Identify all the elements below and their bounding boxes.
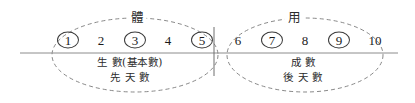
number-7: 7: [261, 32, 283, 49]
diagram-root: 體 用 1 2 3 4 5 6 7 8 9 10 生 數(基本數) 先 天 數 …: [0, 0, 415, 103]
description-right-secondary: 後 天 數: [283, 72, 322, 83]
group-cap-label-right: 用: [285, 12, 304, 25]
description-right-primary: 成 數: [291, 57, 316, 68]
diagram-text-layer: 體 用 1 2 3 4 5 6 7 8 9 10 生 數(基本數) 先 天 數 …: [0, 0, 415, 103]
number-5: 5: [191, 32, 213, 49]
number-2: 2: [98, 34, 105, 47]
description-left-primary: 生 數(基本數): [97, 57, 163, 68]
number-4: 4: [165, 34, 172, 47]
number-6: 6: [235, 34, 242, 47]
number-10: 10: [369, 34, 382, 47]
description-left-secondary: 先 天 數: [110, 72, 149, 83]
group-cap-label-left: 體: [128, 12, 147, 25]
number-8: 8: [302, 34, 309, 47]
number-9: 9: [328, 32, 350, 49]
number-3: 3: [124, 32, 146, 49]
number-1: 1: [57, 32, 79, 49]
